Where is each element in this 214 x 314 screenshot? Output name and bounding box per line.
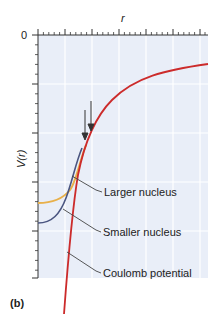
larger-nucleus-label: Larger nucleus: [104, 186, 177, 198]
coulomb-potential-label: Coulomb potential: [103, 267, 192, 279]
x-axis: [32, 29, 208, 35]
plot-area: [38, 35, 208, 278]
zero-tick-label: 0: [21, 29, 27, 41]
y-axis-label: V(r): [15, 149, 27, 168]
potential-chart: 0 r V(r) Larger nucleus Smaller nucleus …: [0, 0, 214, 314]
y-axis: [32, 35, 38, 278]
panel-label: (b): [10, 297, 24, 309]
smaller-nucleus-label: Smaller nucleus: [103, 226, 182, 238]
x-axis-label: r: [121, 12, 126, 24]
